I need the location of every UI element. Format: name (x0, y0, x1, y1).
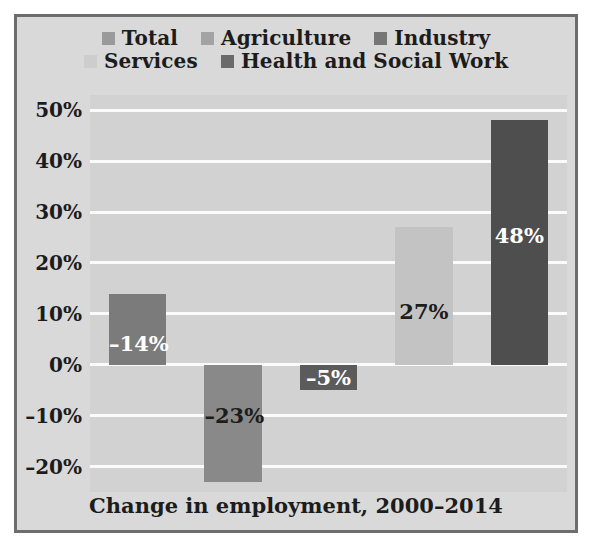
bar-value-label-industry: –5% (300, 365, 357, 390)
bar-value-label-agriculture: –23% (204, 403, 261, 428)
plot-wrapper: –14%–23%–5%27%48% (17, 17, 575, 530)
gridline-neg10 (90, 414, 567, 417)
bar-value-label-health-and-social-work: 48% (491, 223, 548, 248)
gridline-neg20 (90, 465, 567, 468)
bar-value-label-services: 27% (395, 299, 452, 324)
chart-caption: Change in employment, 2000–2014 (17, 493, 575, 518)
bar-total[interactable]: –14% (109, 294, 166, 365)
bar-agriculture[interactable]: –23% (204, 365, 261, 482)
gridline-50 (90, 109, 567, 112)
plot-area: –14%–23%–5%27%48% (90, 95, 567, 492)
bar-health-and-social-work[interactable]: 48% (491, 120, 548, 364)
bar-services[interactable]: 27% (395, 227, 452, 364)
bar-industry[interactable]: –5% (300, 365, 357, 390)
chart-figure: Total Agriculture Industry Services Heal… (14, 14, 578, 533)
bar-value-label-total: –14% (109, 331, 166, 356)
